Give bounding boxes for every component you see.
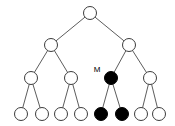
tree-node-filled[interactable] [95,108,108,121]
tree-node-open[interactable] [144,72,157,85]
tree-node-open[interactable] [65,72,78,85]
tree-edge [34,51,47,73]
tree-edge [23,84,30,107]
tree-edge [103,84,110,107]
tree-edge [73,84,80,107]
tree-edge [95,17,124,41]
tree-node-open[interactable] [36,108,49,121]
tree-node-open[interactable] [153,108,166,121]
tree-edge [143,84,149,107]
tree-node-open[interactable] [84,7,97,20]
tree-node-open[interactable] [75,108,88,121]
tree-edge [132,50,146,72]
tree-node-open[interactable] [45,39,58,52]
node-annotation-label: M [94,65,101,74]
tree-edge [152,84,158,107]
tree-edge [113,84,120,108]
tree-edge [54,51,67,73]
tree-node-open[interactable] [135,108,148,121]
tree-edge [56,17,85,41]
edge-layer [23,17,158,108]
tree-node-filled[interactable] [105,72,118,85]
annotation-layer: M [94,65,101,74]
tree-node-open[interactable] [55,108,68,121]
tree-node-open[interactable] [25,72,38,85]
tree-node-open[interactable] [123,39,136,52]
tree-edge [114,51,126,73]
node-layer [15,7,166,121]
binary-tree-figure: M [0,0,175,126]
tree-node-open[interactable] [15,108,28,121]
tree-edge [63,84,70,107]
tree-node-filled[interactable] [116,108,129,121]
tree-edge [33,84,40,108]
tree-canvas: M [0,0,175,126]
